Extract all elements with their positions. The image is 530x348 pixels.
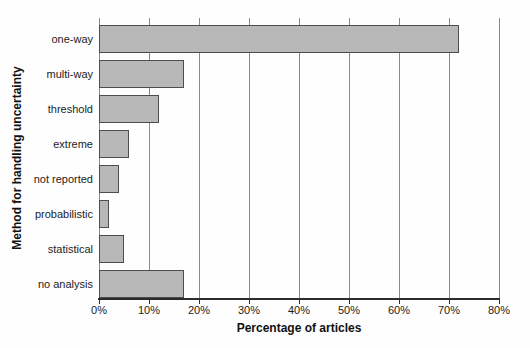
bar-multi-way (99, 60, 184, 88)
gridline-50 (349, 18, 350, 298)
x-tick-label-50: 50% (324, 304, 374, 316)
category-label-probabilistic: probabilistic (0, 200, 93, 228)
x-axis-title: Percentage of articles (99, 321, 499, 335)
x-tick-label-20: 20% (174, 304, 224, 316)
x-tick-label-30: 30% (224, 304, 274, 316)
x-tick-label-70: 70% (424, 304, 474, 316)
bar-threshold (99, 95, 159, 123)
gridline-40 (299, 18, 300, 298)
bar-statistical (99, 235, 124, 263)
category-label-not-reported: not reported (0, 165, 93, 193)
category-label-extreme: extreme (0, 130, 93, 158)
x-tick-label-80: 80% (474, 304, 524, 316)
bar-extreme (99, 130, 129, 158)
bar-no-analysis (99, 270, 184, 298)
x-tick-label-40: 40% (274, 304, 324, 316)
category-label-threshold: threshold (0, 95, 93, 123)
gridline-60 (399, 18, 400, 298)
category-label-no-analysis: no analysis (0, 270, 93, 298)
x-tick-label-60: 60% (374, 304, 424, 316)
gridline-20 (199, 18, 200, 298)
category-label-one-way: one-way (0, 25, 93, 53)
gridline-70 (449, 18, 450, 298)
category-label-multi-way: multi-way (0, 60, 93, 88)
category-label-statistical: statistical (0, 235, 93, 263)
bar-not-reported (99, 165, 119, 193)
bar-one-way (99, 25, 459, 53)
x-tick-label-0: 0% (74, 304, 124, 316)
bar-chart: Method for handling uncertainty one-waym… (0, 0, 530, 348)
x-tick-label-10: 10% (124, 304, 174, 316)
bar-probabilistic (99, 200, 109, 228)
gridline-80 (499, 18, 500, 298)
plot-area (99, 18, 499, 298)
gridline-30 (249, 18, 250, 298)
